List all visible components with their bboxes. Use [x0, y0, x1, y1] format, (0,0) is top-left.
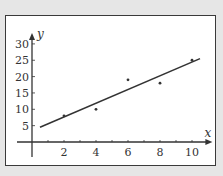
y-tick-label: 20 — [15, 71, 29, 84]
x-tick-label: 8 — [157, 146, 164, 159]
scatter-chart: 24681051015202530 x y — [0, 0, 223, 176]
ticks — [32, 44, 192, 142]
y-tick-label: 25 — [15, 54, 29, 67]
data-point — [159, 82, 162, 85]
y-tick-label: 15 — [15, 87, 29, 100]
data-point — [191, 59, 194, 62]
x-axis-label: x — [204, 126, 211, 140]
data-point — [127, 78, 130, 81]
x-tick-label: 4 — [93, 146, 100, 159]
y-axis-label: y — [36, 27, 44, 41]
data-point — [63, 114, 66, 117]
y-tick-label: 10 — [15, 103, 29, 116]
y-tick-label: 5 — [22, 120, 29, 133]
x-tick-label: 2 — [61, 146, 68, 159]
x-tick-label: 6 — [125, 146, 132, 159]
y-tick-label: 30 — [15, 38, 29, 51]
data-point — [95, 108, 98, 111]
x-tick-label: 10 — [185, 146, 199, 159]
